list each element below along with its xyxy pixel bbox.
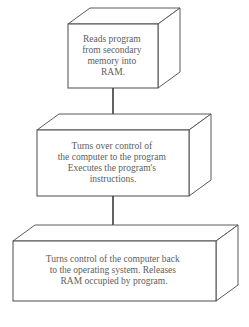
node-1-line-0: Reads program (83, 34, 141, 44)
node-1-line-1: from secondary (82, 45, 142, 55)
node-1-line-3: RAM. (101, 67, 125, 77)
node-1-line-2: memory into (87, 56, 136, 66)
node-2-top-face (37, 114, 211, 130)
flow-node-2[interactable]: Turns over control of the computer to th… (37, 114, 211, 196)
node-2-line-2: Executes the program's (68, 163, 157, 173)
flowchart-canvas: Reads program from secondary memory into… (0, 0, 249, 327)
node-3-top-face (13, 225, 238, 241)
node-2-line-1: the computer to the program (58, 152, 167, 162)
flow-node-3[interactable]: Turns control of the computer back to th… (13, 225, 238, 301)
node-3-label: Turns control of the computer back to th… (46, 254, 182, 286)
node-2-line-3: instructions. (90, 174, 137, 184)
node-3-line-1: to the operating system. Releases (50, 265, 177, 275)
node-2-line-0: Turns over control of (71, 141, 152, 151)
flowchart-diagram: Reads program from secondary memory into… (0, 0, 249, 327)
node-3-line-2: RAM occupied by program. (60, 276, 167, 286)
node-3-line-0: Turns control of the computer back (46, 254, 180, 264)
flow-node-1[interactable]: Reads program from secondary memory into… (68, 8, 180, 88)
